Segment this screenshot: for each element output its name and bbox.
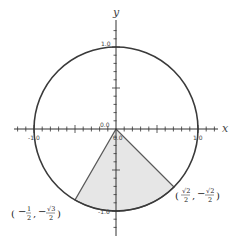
svg-text:√3: √3 (47, 205, 55, 213)
svg-text:2: 2 (208, 196, 212, 204)
svg-text:,: , (33, 208, 36, 219)
svg-text:−: − (38, 206, 46, 217)
origin-x-label: 0.0 (100, 121, 110, 128)
svg-text:(: ( (11, 208, 15, 219)
origin-y-label: 0.0 (113, 134, 123, 141)
svg-text:−: − (197, 188, 205, 199)
svg-text:2: 2 (184, 196, 188, 204)
svg-text:,: , (192, 190, 195, 201)
x-tick-neg-label: -1.0 (28, 134, 40, 141)
svg-text:2: 2 (49, 214, 53, 222)
y-axis-label: y (112, 6, 120, 19)
x-axis-label: x (222, 122, 229, 135)
svg-text:1: 1 (27, 205, 31, 213)
unit-circle-diagram: x y -1.0 1.0 1.0 -1.0 0.0 0.0 ( − 1 2 , … (0, 0, 237, 242)
svg-text:): ) (57, 208, 61, 219)
svg-text:2: 2 (27, 214, 31, 222)
point-a-label: ( − 1 2 , − √3 2 ) (11, 205, 61, 222)
y-tick-neg-label: -1.0 (98, 208, 110, 215)
y-tick-pos-label: 1.0 (101, 40, 111, 47)
point-b-label: ( √2 2 , − √2 2 ) (175, 187, 220, 204)
svg-text:): ) (216, 190, 220, 201)
svg-text:√2: √2 (206, 187, 214, 195)
svg-text:√2: √2 (182, 187, 190, 195)
svg-text:−: − (18, 206, 26, 217)
x-tick-pos-label: 1.0 (193, 134, 203, 141)
svg-text:(: ( (175, 190, 179, 201)
